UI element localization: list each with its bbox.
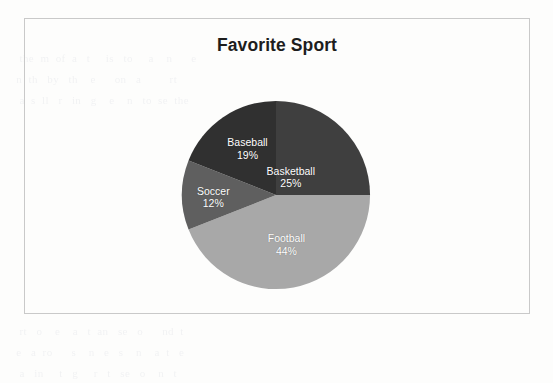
slice-label-value: 44% xyxy=(268,244,305,257)
slice-label-name: Basketball xyxy=(267,164,315,176)
slice-label-name: Baseball xyxy=(227,136,267,148)
slice-label-name: Football xyxy=(268,232,305,244)
pie-slice-label-baseball: Baseball19% xyxy=(227,136,267,161)
pie-slice-label-basketball: Basketball25% xyxy=(267,164,315,189)
pie-slice-label-football: Football44% xyxy=(268,232,305,257)
slice-label-value: 19% xyxy=(227,148,267,161)
slice-label-name: Soccer xyxy=(197,184,230,196)
slice-label-value: 12% xyxy=(197,197,230,210)
slice-label-value: 25% xyxy=(267,177,315,190)
chart-frame: Favorite Sport Basketball25%Football44%S… xyxy=(24,18,530,314)
pie-slice-label-soccer: Soccer12% xyxy=(197,184,230,209)
pie-chart: Basketball25%Football44%Soccer12%Basebal… xyxy=(181,100,371,290)
chart-title: Favorite Sport xyxy=(25,35,529,56)
